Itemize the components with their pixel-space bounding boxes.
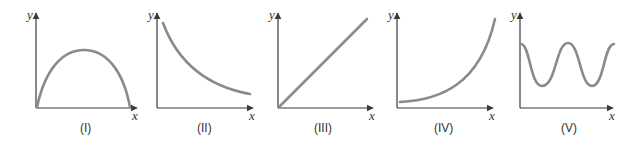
panel-ii: y x (II) bbox=[146, 7, 255, 135]
graphs-figure: y x (I) y x (II) y x (III) y x (IV) y x … bbox=[0, 0, 640, 147]
panel-label: (III) bbox=[314, 121, 332, 135]
panel-label: (I) bbox=[80, 121, 91, 135]
y-axis-label: y bbox=[146, 7, 154, 22]
panel-iii: y x (III) bbox=[267, 7, 375, 135]
linear-curve bbox=[279, 19, 367, 107]
x-axis-label: x bbox=[368, 108, 375, 123]
decay-curve bbox=[163, 23, 250, 94]
wave-curve bbox=[521, 43, 614, 86]
arch-curve bbox=[37, 50, 130, 107]
y-axis-label: y bbox=[25, 7, 33, 22]
panel-label: (II) bbox=[197, 121, 212, 135]
panel-label: (IV) bbox=[434, 121, 453, 135]
x-axis-label: x bbox=[608, 108, 615, 123]
x-axis-label: x bbox=[131, 108, 138, 123]
y-axis-label: y bbox=[509, 7, 517, 22]
panel-i: y x (I) bbox=[25, 7, 138, 135]
panel-iv: y x (IV) bbox=[386, 7, 495, 135]
y-axis-label: y bbox=[267, 7, 275, 22]
y-axis-label: y bbox=[386, 7, 394, 22]
x-axis-label: x bbox=[248, 108, 255, 123]
growth-curve bbox=[400, 19, 495, 102]
panel-v: y x (V) bbox=[509, 7, 615, 135]
panel-label: (V) bbox=[561, 121, 577, 135]
x-axis-label: x bbox=[488, 108, 495, 123]
